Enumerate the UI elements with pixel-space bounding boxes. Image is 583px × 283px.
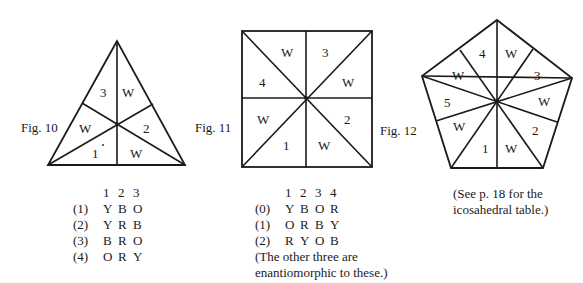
- fig11-table: 1 2 3 4 (0) Y B O R (1) O R B Y (2) R Y …: [255, 185, 345, 249]
- table-header: 4: [330, 185, 345, 201]
- fig12-region-label: W: [538, 94, 551, 109]
- table-cell: O: [103, 249, 118, 265]
- fig10-region-label: 2: [143, 121, 150, 136]
- table-row: (1) Y B O: [73, 201, 148, 217]
- row-index: (2): [255, 233, 285, 249]
- table-cell: R: [118, 233, 133, 249]
- row-index: (0): [255, 201, 285, 217]
- table-row: (3) B R O: [73, 233, 148, 249]
- table-cell: R: [118, 249, 133, 265]
- table-cell: O: [315, 201, 330, 217]
- fig12-region-label: 5: [444, 95, 451, 110]
- fig11-region-label: W: [257, 112, 270, 127]
- table-header: 2: [300, 185, 315, 201]
- fig10-region-label: W: [79, 121, 92, 136]
- table-cell: B: [133, 217, 148, 233]
- table-cell: Y: [330, 217, 345, 233]
- fig10-region-label: 1: [92, 146, 99, 161]
- table-cell: Y: [300, 233, 315, 249]
- row-index: (2): [73, 217, 103, 233]
- fig12-region-label: 3: [534, 68, 541, 83]
- table-cell: Y: [103, 217, 118, 233]
- fig12-caption: Fig. 12: [380, 123, 417, 139]
- row-index: (3): [73, 233, 103, 249]
- table-row: (2) Y R B: [73, 217, 148, 233]
- row-index: (1): [73, 201, 103, 217]
- fig12-region-label: 4: [479, 46, 486, 61]
- fig12-region-label: W: [505, 141, 518, 156]
- table-cell: R: [285, 233, 300, 249]
- fig11-region-label: W: [281, 45, 294, 60]
- table-header-row: 1 2 3 4: [255, 185, 345, 201]
- table-cell: O: [285, 217, 300, 233]
- fig10-table: 1 2 3 (1) Y B O (2) Y R B (3) B R O (4) …: [73, 185, 148, 265]
- table-header: 2: [118, 185, 133, 201]
- table-cell: B: [330, 233, 345, 249]
- table-cell: B: [118, 201, 133, 217]
- table-header: 1: [285, 185, 300, 201]
- fig10-caption: Fig. 10: [21, 120, 58, 136]
- fig11-region-label: 1: [283, 138, 290, 153]
- table-row: (4) O R Y: [73, 249, 148, 265]
- fig11-region-label: 3: [322, 45, 329, 60]
- fig12-region-label: 2: [532, 123, 539, 138]
- table-header: 3: [315, 185, 330, 201]
- fig10-triangle: 3 W 2 W 1 W: [48, 41, 185, 165]
- note-line: (The other three are: [255, 249, 388, 265]
- table-cell: O: [133, 201, 148, 217]
- fig11-region-label: W: [342, 75, 355, 90]
- fig11-region-label: 4: [259, 75, 266, 90]
- fig12-region-label: W: [452, 68, 465, 83]
- table-cell: Y: [103, 201, 118, 217]
- fig12-note: (See p. 18 for the icosahedral table.): [453, 186, 548, 218]
- table-cell: R: [300, 217, 315, 233]
- row-index: (4): [73, 249, 103, 265]
- table-row: (1) O R B Y: [255, 217, 345, 233]
- row-index: (1): [255, 217, 285, 233]
- table-row: (2) R Y O B: [255, 233, 345, 249]
- table-row: (0) Y B O R: [255, 201, 345, 217]
- table-cell: B: [315, 217, 330, 233]
- fig10-region-label: 3: [100, 85, 107, 100]
- table-cell: R: [118, 217, 133, 233]
- fig10-region-label: W: [122, 85, 135, 100]
- table-cell: B: [300, 201, 315, 217]
- fig11-region-label: 2: [344, 112, 351, 127]
- fig11-region-label: W: [318, 138, 331, 153]
- table-cell: B: [103, 233, 118, 249]
- note-line: icosahedral table.): [453, 202, 548, 218]
- note-line: enantiomorphic to these.): [255, 265, 388, 281]
- fig12-region-label: W: [505, 46, 518, 61]
- table-cell: Y: [285, 201, 300, 217]
- table-header: 3: [133, 185, 148, 201]
- table-cell: O: [315, 233, 330, 249]
- table-cell: O: [133, 233, 148, 249]
- table-header-row: 1 2 3: [73, 185, 148, 201]
- fig11-note: (The other three are enantiomorphic to t…: [255, 249, 388, 281]
- fig12-pentagon: 4 W 3 W 2 W 1 W 5 W: [422, 20, 572, 168]
- table-header: 1: [103, 185, 118, 201]
- table-cell: R: [330, 201, 345, 217]
- table-cell: Y: [133, 249, 148, 265]
- fig11-caption: Fig. 11: [195, 120, 231, 136]
- fig12-region-label: W: [453, 119, 466, 134]
- fig10-region-label: W: [130, 146, 143, 161]
- note-line: (See p. 18 for the: [453, 186, 548, 202]
- fig11-square: W 3 W 2 W 1 W 4: [242, 31, 372, 167]
- fig12-region-label: 1: [482, 141, 489, 156]
